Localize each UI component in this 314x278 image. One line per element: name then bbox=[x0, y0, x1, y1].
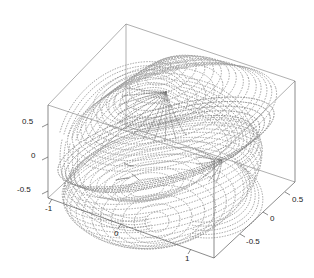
plot-3d-surface bbox=[0, 0, 314, 278]
z-axis-ticks bbox=[42, 124, 48, 194]
x-tick-label-0: 0 bbox=[114, 230, 118, 238]
z-tick-label-0.5: 0.5 bbox=[22, 118, 33, 126]
z-tick-label--0.5: -0.5 bbox=[17, 186, 31, 194]
y-axis-ticks bbox=[240, 192, 290, 237]
x-tick-label--1: -1 bbox=[45, 205, 52, 213]
z-tick-label-0: 0 bbox=[31, 152, 35, 160]
y-tick-label--0.5: -0.5 bbox=[246, 238, 260, 246]
x-tick-label-1: 1 bbox=[185, 255, 189, 263]
figure-canvas: 0.5 0 -0.5 -1 0 1 -0.5 0 0.5 bbox=[0, 0, 314, 278]
y-tick-label-0: 0 bbox=[270, 215, 274, 223]
y-tick-label-0.5: 0.5 bbox=[292, 196, 303, 204]
